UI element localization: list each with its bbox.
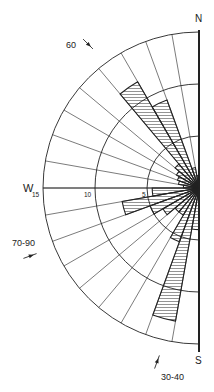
petals-group	[120, 82, 199, 321]
petal-320-330	[120, 82, 199, 188]
dip-arrow-icon	[153, 355, 162, 370]
dip-arrow-icon	[82, 38, 95, 51]
rose-diagram: NWS151056070-9030-40	[0, 0, 214, 392]
scale-label-15: 15	[32, 191, 40, 198]
scale-label-10: 10	[84, 191, 92, 198]
north-label: N	[195, 13, 202, 24]
dip-arrow-icon	[23, 252, 38, 261]
annotation-label: 60	[66, 40, 76, 50]
annotation-label: 30-40	[161, 372, 184, 382]
south-label: S	[195, 355, 202, 366]
annotation-label: 70-90	[12, 238, 35, 248]
scale-label-5: 5	[142, 191, 146, 198]
